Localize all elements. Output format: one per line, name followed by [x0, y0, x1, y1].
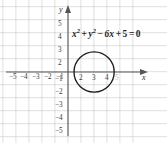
- y-tick-minus-4: −4: [55, 115, 62, 122]
- graph-figure: x y 5 4 3 2 −1 −2 −3 −4 −5 −5 −4 −3 −2 −…: [0, 0, 167, 143]
- x-tick-5: 5: [115, 75, 119, 82]
- y-axis-arrowhead: [65, 5, 71, 13]
- y-tick-4: 4: [58, 34, 62, 41]
- x-tick-4: 4: [105, 75, 109, 82]
- y-axis-label: y: [59, 6, 63, 14]
- x-axis-label: x: [142, 74, 146, 82]
- equation-annotation: x2+y2−6x+5=0: [72, 29, 141, 39]
- x-tick-minus-1: −1: [56, 74, 63, 81]
- equation-minus: −: [98, 29, 103, 39]
- y-tick-2: 2: [58, 60, 62, 67]
- x-tick-minus-2: −2: [44, 74, 51, 81]
- y-tick-3: 3: [58, 47, 62, 54]
- y-tick-minus-2: −2: [55, 89, 62, 96]
- equation-plus-1: +: [82, 29, 87, 39]
- equation-plus-2: +: [116, 29, 121, 39]
- x-tick-minus-3: −3: [32, 74, 39, 81]
- equation-x-exponent: 2: [77, 27, 80, 34]
- x-tick-2: 2: [79, 75, 83, 82]
- y-tick-minus-3: −3: [55, 102, 62, 109]
- equation-y-exponent: 2: [93, 27, 96, 34]
- y-tick-5: 5: [58, 21, 62, 28]
- y-axis: [65, 5, 71, 136]
- x-tick-minus-4: −4: [20, 74, 27, 81]
- equation-rhs: 0: [136, 29, 141, 39]
- y-tick-minus-5: −5: [55, 128, 62, 135]
- x-tick-minus-5: −5: [9, 74, 16, 81]
- equation-linear-term: 6x: [105, 29, 115, 39]
- equation-equals: =: [129, 29, 134, 39]
- equation-constant: 5: [123, 29, 128, 39]
- coordinate-plane-svg: [0, 0, 167, 143]
- x-tick-3: 3: [92, 75, 96, 82]
